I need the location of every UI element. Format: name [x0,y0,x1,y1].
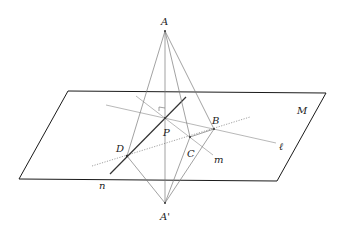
line-m [136,96,213,155]
segment-ab [165,31,214,129]
label-a: A [160,16,168,27]
point-p [164,117,166,119]
label-line-l: ℓ [279,141,283,152]
segment-cb [190,129,214,137]
point-a [164,30,166,32]
label-p: P [162,127,170,138]
point-d [126,155,128,157]
label-line-n: n [99,180,105,191]
plane-m [19,91,326,181]
point-c [189,136,191,138]
line-db [92,117,250,166]
label-b: B [211,115,219,126]
right-angle-marker [159,107,165,111]
label-c: C [187,148,195,159]
label-plane-m: M [296,105,308,116]
geometry-diagram: A A' P B C D M ℓ m n [0,0,342,230]
line-l [106,105,276,143]
point-a-prime [164,202,166,204]
point-b [213,128,215,130]
segment-a-prime-c [165,137,190,203]
segment-a-prime-b [165,129,214,203]
label-d: D [115,143,124,154]
label-line-m: m [214,154,223,165]
label-a-prime: A' [159,211,170,222]
